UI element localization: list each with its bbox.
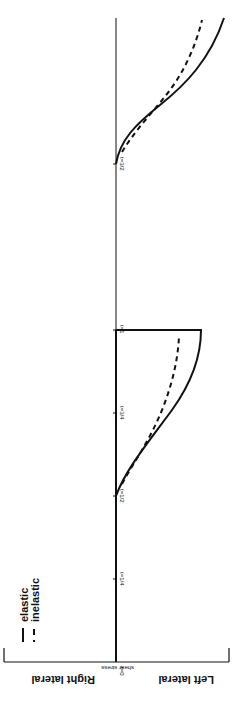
series-inelastic xyxy=(122,20,202,484)
shear-stress-label: shear stress xyxy=(101,665,134,671)
time-axis xyxy=(113,18,116,662)
left-lateral-label: Left lateral xyxy=(158,674,214,686)
tick-t1-4: t=1/4 xyxy=(119,572,125,586)
tick-t1-2: t=1/2 xyxy=(119,489,125,503)
tick-t1: t=1 xyxy=(119,325,125,334)
tick-t0: t=0 xyxy=(119,667,125,676)
legend-inelastic-label: inelastic xyxy=(29,578,41,622)
legend xyxy=(23,628,34,642)
tick-t3-2: t=3/2 xyxy=(119,157,125,171)
right-lateral-label: Right lateral xyxy=(31,674,95,686)
tick-t3-4: t=3/4 xyxy=(119,406,125,420)
series-elastic xyxy=(116,18,224,496)
